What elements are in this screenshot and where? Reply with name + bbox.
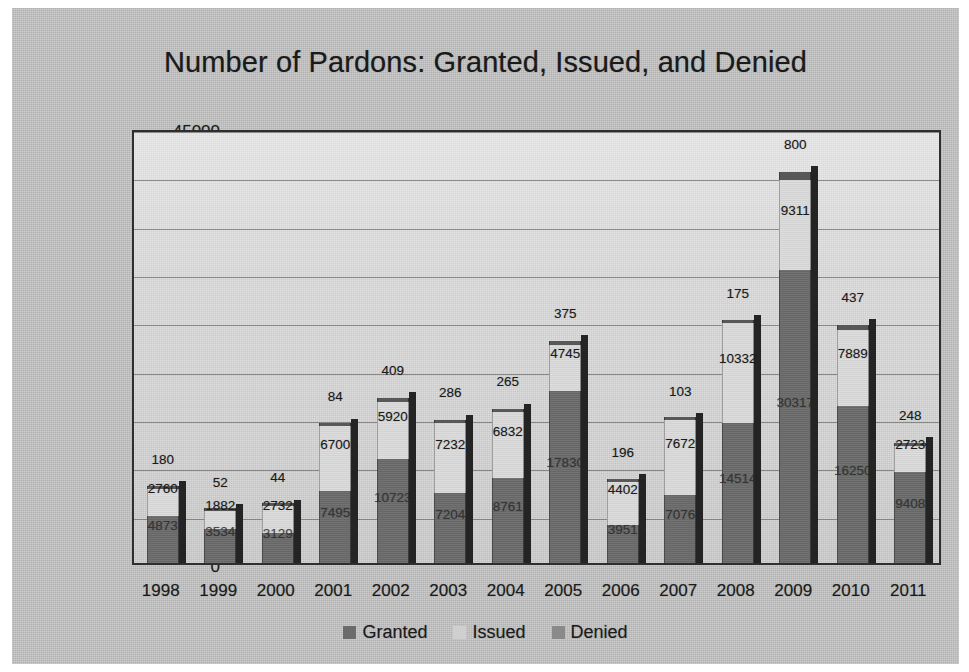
data-label-granted: 7076 xyxy=(665,509,695,523)
data-label-granted: 3129 xyxy=(263,528,293,542)
bar-group[interactable]: 162507889437 xyxy=(824,132,882,563)
bar-segment-denied[interactable] xyxy=(779,172,811,180)
bar-segment-denied[interactable] xyxy=(319,423,351,426)
bar-group[interactable]: 94082723248 xyxy=(882,132,940,563)
data-label-issued: 7672 xyxy=(665,437,695,451)
legend-swatch-icon xyxy=(343,626,356,639)
x-axis-tick-label: 2010 xyxy=(822,581,880,601)
bar-group[interactable]: 87616832265 xyxy=(479,132,537,563)
bar-group[interactable]: 48732760180 xyxy=(134,132,192,563)
bar-segment-granted[interactable] xyxy=(319,491,351,563)
data-label-granted: 16250 xyxy=(834,464,872,478)
data-label-issued: 2732 xyxy=(263,499,293,513)
data-label-granted: 14514 xyxy=(719,473,757,487)
bar-shadow xyxy=(466,415,473,563)
bar-shadow xyxy=(696,413,703,563)
data-label-granted: 8761 xyxy=(493,500,523,514)
bar-segment-issued[interactable] xyxy=(319,426,351,491)
bar-segment-denied[interactable] xyxy=(377,398,409,402)
x-axis-tick-label: 2008 xyxy=(707,581,765,601)
data-label-issued: 4402 xyxy=(608,483,638,497)
data-label-denied: 800 xyxy=(784,138,807,152)
bar-shadow xyxy=(179,481,186,563)
bar-series-container: 4873276018035341882523129273244749567008… xyxy=(134,132,939,563)
data-label-issued: 7889 xyxy=(838,348,868,362)
x-axis-tick-label: 2009 xyxy=(765,581,823,601)
bar-group[interactable]: 3129273244 xyxy=(249,132,307,563)
data-label-granted: 30317 xyxy=(776,396,814,410)
bar-segment-denied[interactable] xyxy=(837,325,869,329)
data-label-denied: 44 xyxy=(270,472,285,486)
bar-shadow xyxy=(639,474,646,563)
bar-segment-issued[interactable] xyxy=(779,180,811,270)
bar-segment-granted[interactable] xyxy=(664,495,696,563)
legend-label: Issued xyxy=(472,622,525,643)
bar-group[interactable]: 303179311800 xyxy=(767,132,825,563)
data-label-granted: 7204 xyxy=(435,508,465,522)
x-axis-tick-label: 2003 xyxy=(420,581,478,601)
bar-segment-denied[interactable] xyxy=(664,417,696,420)
bar-segment-granted[interactable] xyxy=(894,472,926,563)
bar-segment-granted[interactable] xyxy=(722,423,754,563)
stacked-bar[interactable] xyxy=(549,341,581,563)
legend-item-denied[interactable]: Denied xyxy=(552,622,628,643)
bar-shadow xyxy=(409,392,416,563)
bar-shadow xyxy=(811,166,818,563)
bar-shadow xyxy=(869,319,876,563)
bar-segment-issued[interactable] xyxy=(492,412,524,478)
data-label-issued: 2723 xyxy=(895,439,925,453)
bar-segment-denied[interactable] xyxy=(492,409,524,412)
legend-item-granted[interactable]: Granted xyxy=(343,622,427,643)
bar-segment-granted[interactable] xyxy=(779,270,811,563)
data-label-granted: 3951 xyxy=(608,524,638,538)
bar-segment-issued[interactable] xyxy=(664,420,696,494)
bar-segment-denied[interactable] xyxy=(549,341,581,345)
legend-item-issued[interactable]: Issued xyxy=(453,622,525,643)
bar-group[interactable]: 70767672103 xyxy=(652,132,710,563)
bar-group[interactable]: 107235920409 xyxy=(364,132,422,563)
x-axis-tick-label: 1999 xyxy=(190,581,248,601)
bar-shadow xyxy=(236,504,243,563)
chart-plot: 4500040000350003000025000200001500010000… xyxy=(120,122,941,573)
x-axis-tick-label: 2004 xyxy=(477,581,535,601)
data-label-granted: 17830 xyxy=(546,457,584,471)
bar-segment-issued[interactable] xyxy=(722,323,754,423)
bar-shadow xyxy=(581,335,588,563)
bar-group[interactable]: 72047232286 xyxy=(422,132,480,563)
data-label-denied: 248 xyxy=(899,409,922,423)
legend-label: Granted xyxy=(362,622,427,643)
bar-segment-granted[interactable] xyxy=(837,406,869,563)
x-axis-tick-label: 2006 xyxy=(592,581,650,601)
data-label-issued: 10332 xyxy=(719,353,757,367)
data-label-denied: 409 xyxy=(381,364,404,378)
x-axis-tick-label: 2007 xyxy=(650,581,708,601)
bar-group[interactable]: 39514402196 xyxy=(594,132,652,563)
bar-segment-granted[interactable] xyxy=(434,493,466,563)
bar-group[interactable]: 7495670084 xyxy=(307,132,365,563)
bar-segment-denied[interactable] xyxy=(434,420,466,423)
bar-segment-granted[interactable] xyxy=(549,391,581,563)
data-label-denied: 180 xyxy=(151,453,174,467)
data-label-issued: 6832 xyxy=(493,425,523,439)
data-label-granted: 10723 xyxy=(374,491,412,505)
legend-swatch-icon xyxy=(453,626,466,639)
data-label-issued: 7232 xyxy=(435,438,465,452)
bar-segment-issued[interactable] xyxy=(434,423,466,493)
x-axis-tick-label: 2001 xyxy=(305,581,363,601)
bar-group[interactable]: 1451410332175 xyxy=(709,132,767,563)
x-axis-tick-label: 2000 xyxy=(247,581,305,601)
bar-segment-granted[interactable] xyxy=(492,478,524,563)
bar-segment-issued[interactable] xyxy=(837,330,869,406)
legend-swatch-icon xyxy=(552,626,565,639)
bar-group[interactable]: 3534188252 xyxy=(192,132,250,563)
bar-segment-granted[interactable] xyxy=(377,459,409,563)
bar-shadow xyxy=(926,437,933,563)
x-axis-labels: 1998199920002001200220032004200520062007… xyxy=(132,581,959,607)
bar-segment-denied[interactable] xyxy=(722,320,754,323)
data-label-denied: 265 xyxy=(496,375,519,389)
stacked-bar[interactable] xyxy=(779,172,811,563)
data-label-denied: 437 xyxy=(841,291,864,305)
bar-group[interactable]: 178304745375 xyxy=(537,132,595,563)
data-label-denied: 84 xyxy=(328,391,343,405)
data-label-denied: 286 xyxy=(439,386,462,400)
